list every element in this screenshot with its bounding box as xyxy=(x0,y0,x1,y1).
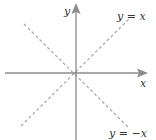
line-label-y-equals-neg-x: y = −x xyxy=(108,127,148,140)
coordinate-diagram: y x y = x y = −x xyxy=(0,0,156,140)
line-label-y-equals-x: y = x xyxy=(116,10,146,23)
origin-point xyxy=(75,72,78,75)
y-axis-label: y xyxy=(63,5,71,18)
x-axis-label: x xyxy=(140,77,147,90)
